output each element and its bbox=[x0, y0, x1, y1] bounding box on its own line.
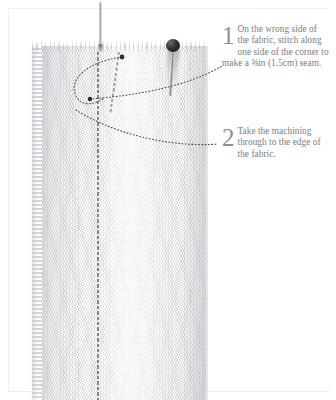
caption-2-number: 2 bbox=[222, 127, 235, 149]
pin-head-icon bbox=[166, 39, 180, 52]
caption-1-number: 1 bbox=[222, 25, 235, 47]
caption-step-2: 2Take the machining through to the edge … bbox=[222, 126, 330, 160]
fabric bbox=[32, 46, 206, 400]
fabric-photo bbox=[0, 0, 215, 400]
sewing-needle-tip bbox=[98, 44, 103, 52]
caption-step-1: 1On the wrong side of the fabric, stitch… bbox=[222, 24, 330, 70]
caption-1-text: On the wrong side of the fabric, stitch … bbox=[222, 24, 329, 68]
illustration-page: 1On the wrong side of the fabric, stitch… bbox=[0, 0, 336, 400]
sewing-needle-icon bbox=[99, 2, 102, 48]
caption-2-text: Take the machining through to the edge o… bbox=[238, 126, 321, 159]
